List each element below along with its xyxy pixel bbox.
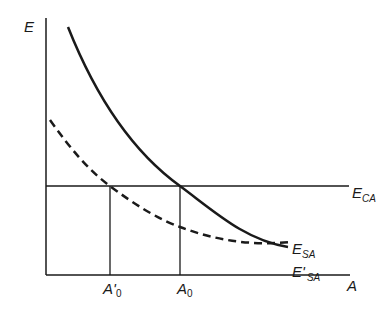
e-ca-label: ECA xyxy=(352,184,376,204)
e-prime-sa-curve xyxy=(50,120,290,243)
y-axis-label: E xyxy=(24,18,35,35)
x-axis-label: A xyxy=(346,277,357,294)
e-sa-label: ESA xyxy=(292,240,316,260)
a-prime-0-label: A'0 xyxy=(102,280,122,299)
e-sa-curve xyxy=(68,27,288,247)
a-0-label: A0 xyxy=(176,280,193,299)
diagram-canvas: E A ECA ESA E'SA A'0 A0 xyxy=(0,0,392,311)
e-prime-sa-label: E'SA xyxy=(292,263,321,283)
